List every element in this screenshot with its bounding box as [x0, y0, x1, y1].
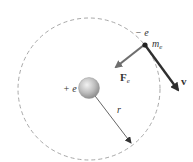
electron	[142, 42, 147, 47]
nucleus-charge-label: + e	[63, 83, 77, 94]
velocity-label: v	[181, 75, 187, 87]
electron-charge-label: − e	[135, 27, 149, 38]
nucleus	[79, 78, 100, 99]
radius-label: r	[117, 104, 121, 115]
bohr-atom-diagram: r + e Fe v − e me	[0, 0, 193, 162]
electron-mass-label: me	[152, 38, 162, 51]
force-label: Fe	[120, 71, 130, 85]
coulomb-force-arrow	[116, 45, 144, 67]
velocity-arrow	[145, 45, 178, 90]
